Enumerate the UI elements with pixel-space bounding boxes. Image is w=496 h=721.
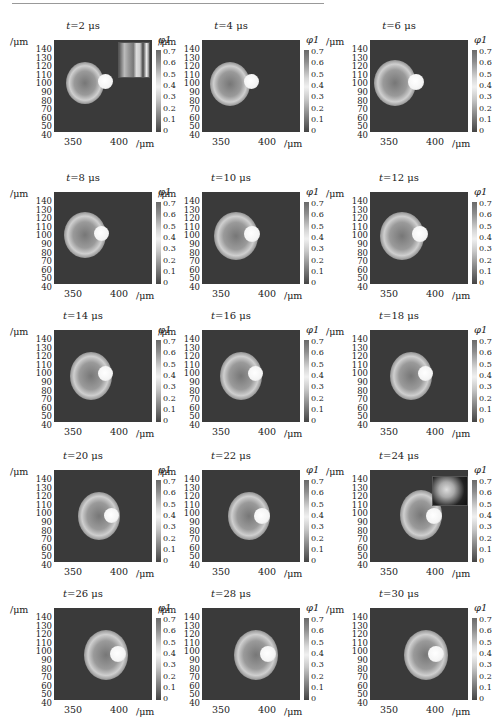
x-tick: 350 (64, 136, 82, 147)
heatmap-plot (370, 470, 468, 562)
colorbar-label: φ1 (306, 34, 319, 45)
colorbar-tick: 0.1 (311, 268, 324, 276)
x-tick: 350 (212, 566, 230, 577)
colorbar (472, 202, 477, 284)
y-axis-ticks: 140130120110100908070605040 (16, 45, 52, 139)
colorbar-tick: 0 (311, 127, 316, 135)
heatmap-plot (54, 192, 152, 284)
colorbar-tick: 0.1 (479, 268, 492, 276)
colorbar-ticks: 0.70.60.50.40.30.20.10 (479, 48, 496, 136)
colorbar-tick: 0.3 (311, 383, 324, 391)
x-axis-ticks: 350 400 (370, 136, 496, 148)
droplet (418, 366, 433, 381)
heatmap-plot (370, 40, 468, 132)
colorbar-tick: 0.3 (479, 245, 492, 253)
droplet (98, 74, 113, 89)
x-axis-ticks: 350 400 (370, 426, 496, 438)
figure-panel: t=18 μs /μm 140130120110100908070605040 … (324, 310, 484, 445)
colorbar-tick: 0.4 (311, 372, 324, 380)
colorbar-ticks: 0.70.60.50.40.30.20.10 (479, 478, 496, 566)
x-axis-ticks: 350 400 (370, 566, 496, 578)
colorbar-tick: 0 (479, 557, 484, 565)
colorbar-tick: 0.4 (479, 234, 492, 242)
heatmap-plot (202, 330, 300, 422)
panel-title: t=24 μs (324, 450, 474, 461)
colorbar-tick: 0.3 (311, 245, 324, 253)
x-tick: 350 (380, 136, 398, 147)
x-tick: 350 (380, 704, 398, 715)
x-tick: 400 (426, 426, 444, 437)
colorbar-tick: 0.1 (479, 546, 492, 554)
x-axis-ticks: 350 400 (202, 704, 332, 716)
colorbar-label: φ1 (474, 186, 487, 197)
y-axis-ticks: 140130120110100908070605040 (332, 335, 368, 429)
x-axis-ticks: 350 400 (202, 426, 332, 438)
x-axis-ticks: 350 400 (202, 566, 332, 578)
figure-panel: t=10 μs /μm 140130120110100908070605040 … (156, 172, 316, 307)
colorbar-tick: 0.2 (311, 395, 324, 403)
colorbar-tick: 0.5 (479, 223, 492, 231)
panel-title: t=8 μs (8, 172, 158, 183)
colorbar-tick: 0 (479, 279, 484, 287)
colorbar-tick: 0.4 (311, 650, 324, 658)
colorbar-tick: 0.4 (311, 234, 324, 242)
y-axis-ticks: 140130120110100908070605040 (164, 613, 200, 707)
x-axis-unit: /μm (452, 706, 470, 717)
panel-title: t=16 μs (156, 310, 306, 321)
y-axis-ticks: 140130120110100908070605040 (332, 197, 368, 291)
x-axis-unit: /μm (452, 290, 470, 301)
colorbar-tick: 0.5 (311, 71, 324, 79)
colorbar-tick: 0.6 (311, 489, 324, 497)
y-tick: 40 (189, 421, 200, 430)
figure-panel: t=28 μs /μm 140130120110100908070605040 … (156, 588, 316, 721)
colorbar-tick: 0.5 (479, 361, 492, 369)
heatmap-plot (370, 330, 468, 422)
colorbar-tick: 0.5 (311, 361, 324, 369)
panel-title: t=18 μs (324, 310, 474, 321)
y-tick: 40 (41, 421, 52, 430)
colorbar-tick: 0.3 (479, 661, 492, 669)
colorbar-tick: 0.5 (479, 501, 492, 509)
x-tick: 400 (258, 426, 276, 437)
droplet (254, 508, 270, 524)
y-tick: 40 (189, 283, 200, 292)
x-axis-unit: /μm (284, 568, 302, 579)
heatmap-plot (54, 608, 152, 700)
colorbar-tick: 0.3 (311, 523, 324, 531)
y-tick: 40 (41, 699, 52, 708)
heatmap-plot (202, 40, 300, 132)
colorbar (472, 340, 477, 422)
y-axis-ticks: 140130120110100908070605040 (164, 197, 200, 291)
colorbar-tick: 0 (479, 127, 484, 135)
droplet (110, 646, 126, 662)
y-tick: 40 (357, 421, 368, 430)
colorbar-tick: 0.7 (479, 338, 492, 346)
x-axis-unit: /μm (136, 428, 154, 439)
colorbar-ticks: 0.70.60.50.40.30.20.10 (479, 200, 496, 288)
colorbar-tick: 0.6 (479, 349, 492, 357)
colorbar-tick: 0.7 (479, 616, 492, 624)
colorbar-tick: 0.5 (311, 501, 324, 509)
figure-panel: t=26 μs /μm 140130120110100908070605040 … (8, 588, 168, 721)
droplet (248, 366, 263, 381)
figure-panel: t=14 μs /μm 140130120110100908070605040 … (8, 310, 168, 445)
heatmap-plot (54, 330, 152, 422)
figure-panel: t=22 μs /μm 140130120110100908070605040 … (156, 450, 316, 585)
colorbar-tick: 0.1 (311, 116, 324, 124)
colorbar-label: φ1 (474, 34, 487, 45)
x-tick: 350 (380, 288, 398, 299)
x-tick: 400 (426, 704, 444, 715)
colorbar-tick: 0.7 (311, 478, 324, 486)
x-axis-ticks: 350 400 (202, 288, 332, 300)
colorbar-ticks: 0.70.60.50.40.30.20.10 (479, 616, 496, 704)
x-tick: 350 (212, 288, 230, 299)
y-tick: 40 (189, 561, 200, 570)
colorbar-tick: 0.2 (311, 535, 324, 543)
panel-title: t=12 μs (324, 172, 474, 183)
y-tick: 40 (189, 699, 200, 708)
panel-title: t=14 μs (8, 310, 158, 321)
figure-panel: t=12 μs /μm 140130120110100908070605040 … (324, 172, 484, 307)
colorbar (472, 480, 477, 562)
y-tick: 40 (41, 131, 52, 140)
colorbar-tick: 0.4 (479, 650, 492, 658)
